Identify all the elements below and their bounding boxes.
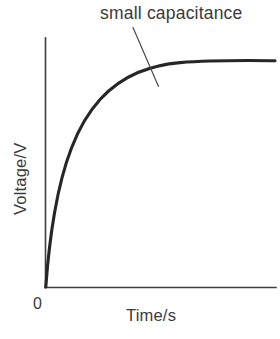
x-axis-label: Time/s: [126, 306, 176, 324]
capacitor-charging-figure: small capacitance Voltage/V Time/s 0: [0, 0, 280, 339]
annotation-label: small capacitance: [100, 3, 243, 23]
origin-label: 0: [33, 295, 42, 312]
y-axis-label: Voltage/V: [11, 143, 29, 215]
